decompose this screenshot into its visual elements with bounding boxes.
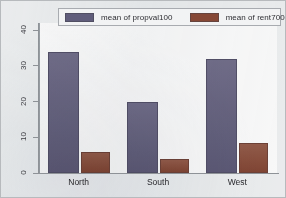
legend-label-propval100: mean of propval100: [101, 13, 173, 22]
bar-north-rent700: [81, 152, 110, 173]
legend-swatch-rent700-icon: [190, 13, 219, 22]
y-axis-tick-label: 30: [19, 56, 28, 74]
bar-west-rent700: [239, 143, 268, 173]
chart-legend: mean of propval100 mean of rent700: [58, 8, 281, 26]
y-axis-tick: [33, 137, 38, 138]
y-axis-tick-label: 0: [19, 164, 28, 182]
legend-label-rent700: mean of rent700: [226, 13, 285, 22]
y-axis-tick-label: 40: [19, 21, 28, 39]
y-axis-tick: [33, 173, 38, 174]
y-axis-tick-label: 10: [19, 128, 28, 146]
y-axis-tick: [33, 65, 38, 66]
x-axis-line: [39, 173, 279, 174]
x-axis-label-south: South: [128, 177, 188, 187]
y-axis-line: [38, 23, 39, 174]
y-axis-tick-label: 20: [19, 92, 28, 110]
bar-south-propval100: [127, 102, 158, 173]
bar-south-rent700: [160, 159, 189, 173]
bar-chart-figure: mean of propval100 mean of rent700 01020…: [0, 0, 286, 198]
bar-west-propval100: [206, 59, 237, 173]
y-axis-tick: [33, 30, 38, 31]
legend-entry-propval100: mean of propval100: [65, 9, 173, 25]
legend-swatch-propval100-icon: [65, 13, 94, 22]
x-axis-label-north: North: [49, 177, 109, 187]
legend-entry-rent700: mean of rent700: [190, 9, 285, 25]
y-axis-tick: [33, 101, 38, 102]
bar-north-propval100: [48, 52, 79, 173]
x-axis-label-west: West: [207, 177, 267, 187]
